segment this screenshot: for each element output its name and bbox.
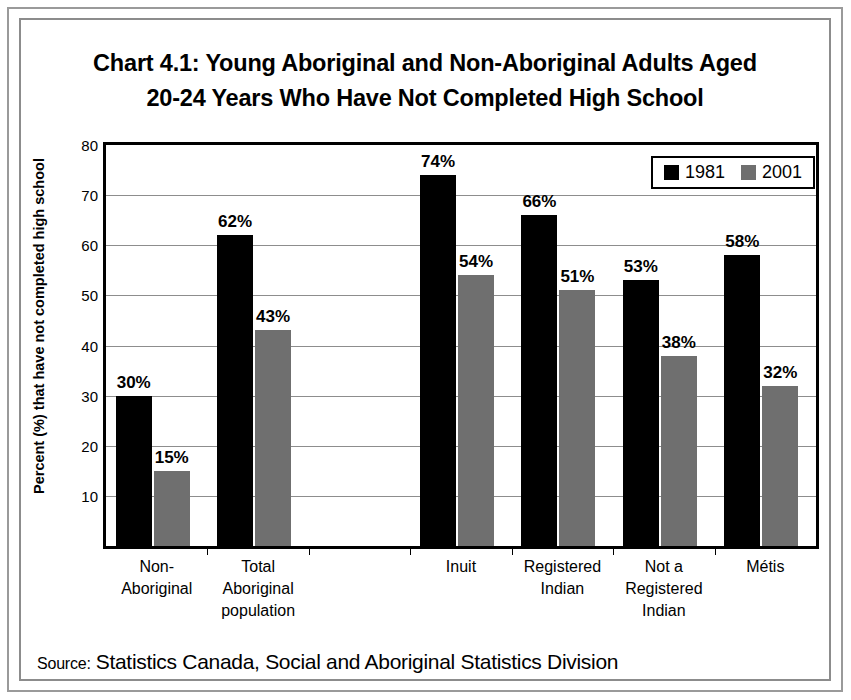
bar-2001: 15% bbox=[154, 471, 190, 546]
x-axis-label: Métis bbox=[689, 556, 841, 578]
title-line-1: Chart 4.1: Young Aboriginal and Non-Abor… bbox=[30, 46, 820, 81]
bar-value-label: 62% bbox=[218, 212, 252, 232]
bar-2001: 32% bbox=[762, 386, 798, 546]
x-axis-tickmark bbox=[309, 549, 310, 555]
legend-swatch-black bbox=[664, 165, 679, 180]
x-axis-label-line: Indian bbox=[588, 600, 740, 622]
bar-1981: 53% bbox=[623, 280, 659, 546]
page-title: Chart 4.1: Young Aboriginal and Non-Abor… bbox=[30, 46, 820, 116]
bar-group: 58%32% bbox=[715, 145, 816, 546]
x-axis-tickmark bbox=[613, 549, 614, 555]
bar-value-label: 74% bbox=[421, 152, 455, 172]
chart-screenshot: Chart 4.1: Young Aboriginal and Non-Abor… bbox=[0, 0, 851, 700]
bar-1981: 58% bbox=[724, 255, 760, 546]
bar-value-label: 32% bbox=[763, 363, 797, 383]
y-axis-ticklabels: 1020304050607080 bbox=[60, 142, 98, 549]
x-axis-label-line: Métis bbox=[689, 556, 841, 578]
bar-group: 30%15% bbox=[106, 145, 207, 546]
bar-value-label: 51% bbox=[560, 267, 594, 287]
legend-swatch-gray bbox=[741, 165, 756, 180]
bar-value-label: 58% bbox=[725, 232, 759, 252]
y-axis-ticklabel: 20 bbox=[81, 437, 98, 454]
bar-value-label: 30% bbox=[117, 373, 151, 393]
bar-group: 53%38% bbox=[613, 145, 714, 546]
x-axis-label-line: Total bbox=[182, 556, 334, 578]
legend-item-1981: 1981 bbox=[664, 163, 725, 181]
y-axis-ticklabel: 80 bbox=[81, 137, 98, 154]
legend-item-2001: 2001 bbox=[741, 163, 802, 181]
bar-group: 62%43% bbox=[207, 145, 308, 546]
x-axis-tickmark bbox=[715, 549, 716, 555]
bar-1981: 74% bbox=[420, 175, 456, 546]
y-axis-ticklabel: 50 bbox=[81, 287, 98, 304]
x-axis-label-line: Aboriginal bbox=[182, 578, 334, 600]
bar-2001: 38% bbox=[661, 356, 697, 546]
bar-1981: 66% bbox=[521, 215, 557, 546]
bar-2001: 43% bbox=[255, 330, 291, 546]
x-axis-labels: Non-AboriginalTotalAboriginalpopulationI… bbox=[103, 556, 819, 641]
bar-1981: 30% bbox=[116, 396, 152, 546]
source-text: Statistics Canada, Social and Aboriginal… bbox=[96, 650, 618, 674]
bar-group: 74%54% bbox=[410, 145, 511, 546]
title-line-2: 20-24 Years Who Have Not Completed High … bbox=[30, 81, 820, 116]
x-axis-tickmark bbox=[207, 549, 208, 555]
x-axis-label-line: population bbox=[182, 600, 334, 622]
y-axis-ticklabel: 10 bbox=[81, 487, 98, 504]
x-axis-tickmark bbox=[410, 549, 411, 555]
bar-series-layer: 30%15%62%43%74%54%66%51%53%38%58%32% bbox=[106, 145, 816, 546]
source-label: Source: bbox=[37, 655, 91, 673]
bar-2001: 51% bbox=[559, 290, 595, 546]
plot-area: 30%15%62%43%74%54%66%51%53%38%58%32% bbox=[103, 142, 819, 549]
bar-value-label: 43% bbox=[256, 307, 290, 327]
y-axis-ticklabel: 70 bbox=[81, 187, 98, 204]
x-axis-label: TotalAboriginalpopulation bbox=[182, 556, 334, 622]
x-axis-label-line: Registered bbox=[588, 578, 740, 600]
y-axis-ticklabel: 40 bbox=[81, 337, 98, 354]
bar-2001: 54% bbox=[458, 275, 494, 546]
chart-legend: 19812001 bbox=[651, 156, 815, 189]
legend-label: 1981 bbox=[685, 163, 725, 181]
legend-label: 2001 bbox=[762, 163, 802, 181]
bar-value-label: 53% bbox=[624, 257, 658, 277]
bar-1981: 62% bbox=[217, 235, 253, 546]
y-axis-title: Percent (%) that have not completed high… bbox=[31, 184, 47, 494]
bar-value-label: 66% bbox=[522, 192, 556, 212]
y-axis-ticklabel: 30 bbox=[81, 387, 98, 404]
bar-value-label: 15% bbox=[155, 448, 189, 468]
bar-value-label: 38% bbox=[662, 333, 696, 353]
y-axis-ticklabel: 60 bbox=[81, 237, 98, 254]
bar-value-label: 54% bbox=[459, 252, 493, 272]
x-axis-tickmark bbox=[512, 549, 513, 555]
bar-group: 66%51% bbox=[512, 145, 613, 546]
source-line: Source: Statistics Canada, Social and Ab… bbox=[37, 650, 618, 674]
